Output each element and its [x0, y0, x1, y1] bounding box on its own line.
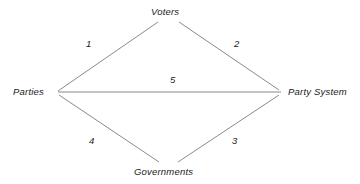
- edge-label-5: 5: [170, 74, 175, 85]
- edge-line-2: [179, 22, 279, 90]
- edge-label-1: 1: [86, 38, 91, 49]
- node-label-governments: Governments: [134, 166, 193, 177]
- edge-line-3: [178, 95, 279, 162]
- edge-line-1: [58, 22, 158, 91]
- edge-label-2: 2: [234, 38, 239, 49]
- edge-label-3: 3: [232, 135, 237, 146]
- node-label-parties: Parties: [13, 86, 44, 97]
- edge-label-4: 4: [89, 135, 94, 146]
- node-label-voters: Voters: [151, 6, 179, 17]
- edge-line-4: [59, 95, 159, 162]
- node-label-party-system: Party System: [288, 86, 347, 97]
- diagram-canvas: Voters Parties Party System Governments …: [0, 0, 360, 184]
